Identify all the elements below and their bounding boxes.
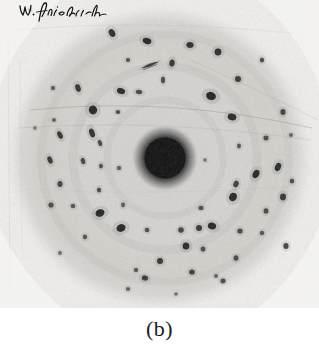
diffraction-photograph <box>0 0 319 308</box>
figure-root: (b) <box>0 0 319 350</box>
figure-caption-label: (b) <box>146 318 173 340</box>
film-grain-coarse <box>0 0 319 308</box>
figure-caption-area: (b) <box>0 308 319 350</box>
diffraction-pattern-canvas <box>0 0 319 308</box>
